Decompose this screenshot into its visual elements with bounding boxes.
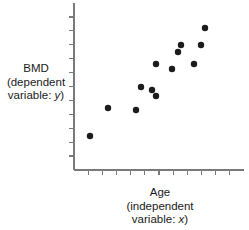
y-axis-label: BMD (dependent variable: y): [0, 62, 72, 103]
y-axis-label-line-1: BMD: [0, 62, 72, 76]
data-point: [169, 66, 175, 72]
x-axis-label-line-3-prefix: variable:: [132, 213, 179, 225]
data-point: [202, 25, 208, 31]
y-axis-label-line-3-suffix: ): [60, 89, 64, 101]
x-axis-label-line-3: variable: x): [74, 213, 246, 227]
x-axis-label: Age (independent variable: x): [74, 186, 246, 227]
y-axis-label-line-3-prefix: variable:: [8, 89, 55, 101]
data-point: [178, 42, 184, 48]
data-point: [133, 107, 139, 113]
x-axis-ticks: [88, 170, 230, 175]
data-point: [175, 49, 181, 55]
data-point: [153, 93, 159, 99]
data-point: [198, 42, 204, 48]
x-axis-label-line-1: Age: [74, 186, 246, 200]
scatter-plot-figure: BMD (dependent variable: y) Age (indepen…: [0, 0, 249, 230]
y-axis-label-line-3: variable: y): [0, 89, 72, 103]
data-point: [191, 61, 197, 67]
x-axis-label-line-2: (independent: [74, 200, 246, 214]
data-point: [105, 105, 111, 111]
data-point: [153, 61, 159, 67]
data-point: [138, 84, 144, 90]
data-point: [149, 87, 155, 93]
x-axis-label-line-3-suffix: ): [184, 213, 188, 225]
data-point: [87, 133, 93, 139]
data-points-group: [87, 25, 208, 139]
axes-group: [74, 3, 244, 170]
y-axis-label-line-2: (dependent: [0, 76, 72, 90]
